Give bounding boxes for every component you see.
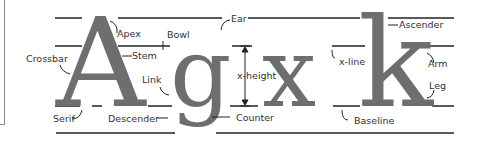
label-x-line: x-line [339,56,365,67]
label-apex: Apex [117,28,141,39]
label-descender: Descender [108,113,159,124]
label-leg: Leg [429,80,446,91]
label-counter: Counter [236,112,274,123]
typography-diagram: A g x k Apex Bowl Ear Ascender Crossbar … [0,0,477,145]
label-arm: Arm [428,58,448,69]
x-line-arrow [332,50,335,58]
label-serif: Serif [53,113,75,124]
label-x-height: x-height [237,70,277,81]
label-link: Link [142,74,162,85]
label-bowl: Bowl [167,29,190,40]
baseline-arrow [342,110,348,120]
label-baseline: Baseline [354,115,394,126]
link-arrow [160,87,169,95]
label-crossbar: Crossbar [26,53,68,64]
label-stem: Stem [132,50,157,61]
label-ascender: Ascender [399,19,443,30]
label-ear: Ear [231,13,247,24]
